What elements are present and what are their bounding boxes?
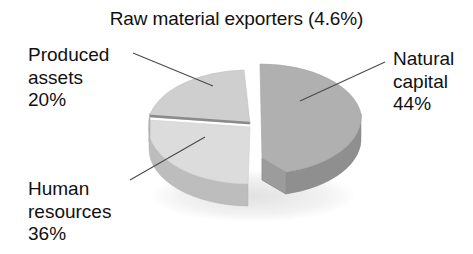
slice-label-produced-assets-line1: Produced [28,44,109,65]
slice-label-human-resources-line2: resources [28,201,111,224]
slice-label-natural-capital-line1: Natural [393,48,454,69]
slice-value-human-resources: 36% [28,223,111,246]
slice-value-natural-capital: 44% [393,93,454,116]
slice-label-natural-capital: Natural capital 44% [393,48,454,116]
slice-label-produced-assets-line2: assets [28,67,109,90]
leader-line-produced-assets [133,53,213,86]
slice-label-produced-assets: Produced assets 20% [28,44,109,112]
slice-label-natural-capital-line2: capital [393,71,454,94]
pie-chart-figure: Raw material exporters (4.6%) [0,0,473,254]
slice-label-human-resources: Human resources 36% [28,178,111,246]
slice-label-human-resources-line1: Human [28,178,89,199]
slice-value-produced-assets: 20% [28,89,109,112]
